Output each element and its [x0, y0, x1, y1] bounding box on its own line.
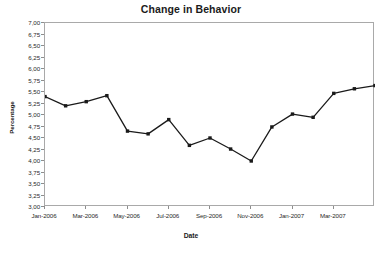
x-tick-label: Jan-2007: [279, 212, 304, 219]
x-tick-mark: [333, 206, 334, 209]
x-tick-label: Jan-2006: [31, 212, 56, 219]
data-point-marker: [229, 147, 232, 150]
chart-container: Change in Behavior Percentage 7,006,756,…: [0, 0, 382, 253]
x-tick-label: Mar-2007: [320, 212, 346, 219]
x-tick-label: Nov-2006: [237, 212, 263, 219]
y-tick-label: 4,50: [28, 134, 40, 141]
data-point-marker: [64, 104, 67, 107]
data-point-marker: [353, 87, 356, 90]
y-tick-label: 3,25: [28, 191, 40, 198]
x-axis-title: Date: [0, 232, 382, 239]
data-point-marker: [45, 95, 47, 98]
plot-area: [44, 22, 374, 206]
y-tick-label: 5,50: [28, 88, 40, 95]
y-tick-label: 6,00: [28, 65, 40, 72]
data-point-marker: [167, 118, 170, 121]
y-tick-label: 7,00: [28, 19, 40, 26]
x-tick-label: Mar-2006: [72, 212, 98, 219]
x-tick-mark: [250, 206, 251, 209]
y-tick-label: 5,75: [28, 76, 40, 83]
x-tick-label: Jul-2006: [156, 212, 179, 219]
data-point-marker: [126, 129, 129, 132]
x-tick-mark: [209, 206, 210, 209]
y-tick-label: 5,25: [28, 99, 40, 106]
data-point-marker: [250, 159, 253, 162]
y-tick-label: 6,75: [28, 30, 40, 37]
data-point-marker: [311, 116, 314, 119]
line-series-svg: [45, 23, 375, 207]
data-point-marker: [105, 94, 108, 97]
y-tick-label: 3,50: [28, 180, 40, 187]
x-tick-mark: [85, 206, 86, 209]
x-tick-mark: [127, 206, 128, 209]
data-point-marker: [332, 92, 335, 95]
x-tick-label: May-2006: [113, 212, 140, 219]
y-tick-label: 5,00: [28, 111, 40, 118]
data-point-marker: [85, 100, 88, 103]
x-tick-mark: [292, 206, 293, 209]
data-point-marker: [188, 144, 191, 147]
y-tick-label: 6,25: [28, 53, 40, 60]
chart-title: Change in Behavior: [0, 3, 382, 15]
data-point-marker: [291, 112, 294, 115]
x-tick-mark: [44, 206, 45, 209]
data-point-marker: [146, 132, 149, 135]
x-tick-label: Sep-2006: [196, 212, 222, 219]
data-point-marker: [270, 125, 273, 128]
y-tick-label: 3,75: [28, 168, 40, 175]
y-tick-label: 4,75: [28, 122, 40, 129]
y-tick-label: 4,25: [28, 145, 40, 152]
y-tick-label: 4,00: [28, 157, 40, 164]
x-tick-mark: [168, 206, 169, 209]
y-tick-label: 6,50: [28, 42, 40, 49]
series-line: [45, 86, 375, 161]
data-point-marker: [208, 136, 211, 139]
data-point-marker: [373, 84, 375, 87]
